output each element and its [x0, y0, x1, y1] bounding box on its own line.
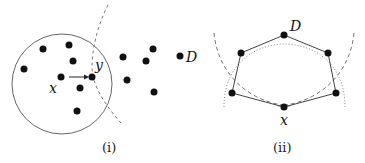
caption-i: (i)	[102, 140, 116, 155]
caption-ii: (ii)	[273, 140, 291, 155]
panel-ii: D x (ii)	[214, 18, 354, 155]
arrowhead-icon	[84, 75, 89, 80]
label-x-ii: x	[280, 112, 288, 128]
points-i	[21, 42, 184, 115]
label-D: D	[185, 49, 197, 65]
polygon	[232, 35, 336, 107]
panel-i: x y D (i)	[12, 5, 197, 155]
label-y: y	[94, 57, 104, 73]
points-ii	[229, 32, 340, 111]
dashed-curve-left	[214, 33, 290, 106]
label-D-ii: D	[289, 18, 301, 34]
neighborhood-circle	[12, 34, 112, 134]
figure: x y D (i) D x (ii)	[0, 0, 365, 163]
label-x: x	[49, 80, 57, 96]
